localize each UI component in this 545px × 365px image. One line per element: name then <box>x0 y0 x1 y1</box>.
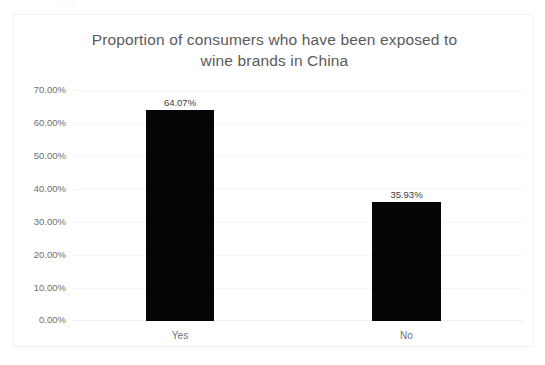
gridline-70: 70.00% <box>73 90 523 91</box>
x-category-label-yes: Yes <box>172 330 188 341</box>
chart-title: Proportion of consumers who have been ex… <box>44 29 505 71</box>
bar-value-label-no: 35.93% <box>390 189 422 200</box>
y-tick-label-50: 50.00% <box>34 151 66 161</box>
gridline-30: 30.00% <box>73 222 523 223</box>
y-tick-label-60: 60.00% <box>34 118 66 128</box>
bar-no[interactable] <box>372 202 441 321</box>
plot-area: 70.00% 60.00% 50.00% 40.00% 30.00% 20.00… <box>73 90 523 321</box>
y-tick-label-30: 30.00% <box>34 217 66 227</box>
y-tick-label-10: 10.00% <box>34 283 66 293</box>
chart-title-line-2: wine brands in China <box>44 50 505 71</box>
bar-yes[interactable] <box>146 110 214 321</box>
y-tick-label-20: 20.00% <box>34 250 66 260</box>
chart-title-line-1: Proportion of consumers who have been ex… <box>44 29 505 50</box>
gridline-0-baseline: 0.00% <box>73 320 523 321</box>
gridline-40: 40.00% <box>73 189 523 190</box>
y-tick-label-0: 0.00% <box>39 315 66 325</box>
x-category-label-no: No <box>400 330 413 341</box>
gridline-60: 60.00% <box>73 123 523 124</box>
page-top-text-remnant: · · · <box>0 0 545 9</box>
chart-container: Proportion of consumers who have been ex… <box>13 14 534 347</box>
gridline-10: 10.00% <box>73 288 523 289</box>
y-tick-label-70: 70.00% <box>34 85 66 95</box>
gridline-20: 20.00% <box>73 255 523 256</box>
bar-value-label-yes: 64.07% <box>164 97 196 108</box>
y-tick-label-40: 40.00% <box>34 184 66 194</box>
bar-group-yes[interactable]: 64.07% Yes <box>146 90 214 321</box>
bar-group-no[interactable]: 35.93% No <box>372 90 441 321</box>
gridline-50: 50.00% <box>73 156 523 157</box>
